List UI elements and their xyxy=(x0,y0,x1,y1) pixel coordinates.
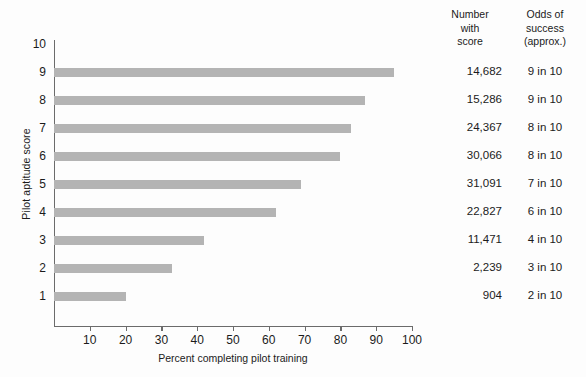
bar-score-8 xyxy=(54,96,365,105)
column-header-odds-line1: Odds of xyxy=(510,8,580,22)
bar-score-4 xyxy=(54,208,276,217)
cell-number-score-1: 904 xyxy=(438,290,502,302)
cell-odds-score-2: 3 in 10 xyxy=(510,262,580,274)
x-tick-40 xyxy=(197,326,198,331)
y-tick-label-10: 10 xyxy=(16,38,46,50)
column-header-odds-line3: (approx.) xyxy=(510,35,580,49)
x-tick-label-30: 30 xyxy=(141,333,181,347)
x-tick-50 xyxy=(233,326,234,331)
bar-score-3 xyxy=(54,236,204,245)
bar-score-7 xyxy=(54,124,351,133)
column-header-number-line2: with xyxy=(438,22,502,36)
cell-number-score-8: 15,286 xyxy=(438,94,502,106)
column-header-odds: Odds of success (approx.) xyxy=(510,8,580,49)
cell-odds-score-8: 9 in 10 xyxy=(510,94,580,106)
bar-score-9 xyxy=(54,68,394,77)
x-tick-70 xyxy=(305,326,306,331)
x-axis-label: Percent completing pilot training xyxy=(54,352,412,364)
cell-odds-score-1: 2 in 10 xyxy=(510,290,580,302)
x-tick-label-50: 50 xyxy=(213,333,253,347)
x-tick-90 xyxy=(376,326,377,331)
column-header-odds-line2: success xyxy=(510,22,580,36)
y-tick-label-4: 4 xyxy=(16,206,46,218)
y-tick-label-7: 7 xyxy=(16,122,46,134)
x-tick-label-100: 100 xyxy=(392,333,432,347)
bar-chart: Pilot aptitude score 10987654321 1020304… xyxy=(0,0,430,377)
y-tick-label-6: 6 xyxy=(16,150,46,162)
y-tick-label-2: 2 xyxy=(16,262,46,274)
column-header-number: Number with score xyxy=(438,8,502,49)
cell-number-score-5: 31,091 xyxy=(438,178,502,190)
y-tick-label-8: 8 xyxy=(16,94,46,106)
bar-score-5 xyxy=(54,180,301,189)
x-tick-label-70: 70 xyxy=(285,333,325,347)
cell-odds-score-4: 6 in 10 xyxy=(510,206,580,218)
y-tick-label-9: 9 xyxy=(16,66,46,78)
cell-number-score-4: 22,827 xyxy=(438,206,502,218)
cell-number-score-6: 30,066 xyxy=(438,150,502,162)
x-tick-label-10: 10 xyxy=(70,333,110,347)
x-tick-30 xyxy=(161,326,162,331)
y-tick-label-5: 5 xyxy=(16,178,46,190)
x-tick-label-60: 60 xyxy=(249,333,289,347)
x-tick-80 xyxy=(340,326,341,331)
x-tick-100 xyxy=(412,326,413,331)
y-tick-label-1: 1 xyxy=(16,290,46,302)
column-header-number-line1: Number xyxy=(438,8,502,22)
cell-number-score-3: 11,471 xyxy=(438,234,502,246)
x-tick-60 xyxy=(269,326,270,331)
bar-score-6 xyxy=(54,152,340,161)
cell-odds-score-9: 9 in 10 xyxy=(510,66,580,78)
cell-odds-score-5: 7 in 10 xyxy=(510,178,580,190)
cell-number-score-9: 14,682 xyxy=(438,66,502,78)
x-tick-label-20: 20 xyxy=(106,333,146,347)
cell-odds-score-7: 8 in 10 xyxy=(510,122,580,134)
bar-score-2 xyxy=(54,264,172,273)
cell-odds-score-6: 8 in 10 xyxy=(510,150,580,162)
x-tick-label-90: 90 xyxy=(356,333,396,347)
x-tick-10 xyxy=(90,326,91,331)
column-header-number-line3: score xyxy=(438,35,502,49)
x-tick-label-80: 80 xyxy=(320,333,360,347)
cell-odds-score-3: 4 in 10 xyxy=(510,234,580,246)
cell-number-score-2: 2,239 xyxy=(438,262,502,274)
data-table: Number with score Odds of success (appro… xyxy=(430,0,586,377)
x-tick-20 xyxy=(126,326,127,331)
bar-score-1 xyxy=(54,292,126,301)
y-tick-label-3: 3 xyxy=(16,234,46,246)
x-tick-label-40: 40 xyxy=(177,333,217,347)
cell-number-score-7: 24,367 xyxy=(438,122,502,134)
